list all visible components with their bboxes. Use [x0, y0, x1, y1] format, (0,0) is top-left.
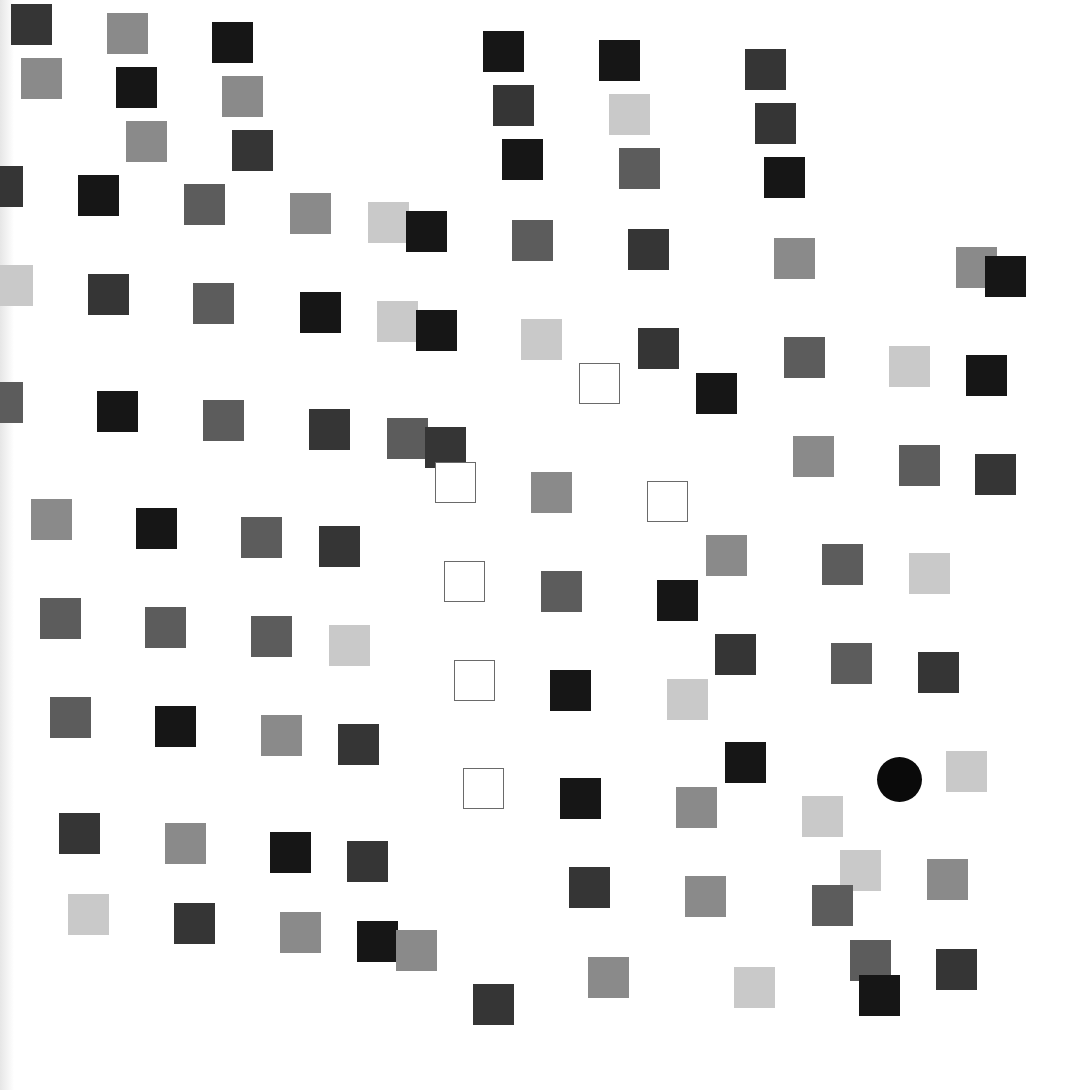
- gray-square: [685, 876, 726, 917]
- mid-square: [40, 598, 81, 639]
- dark-square: [309, 409, 350, 450]
- stimulus-canvas: [0, 0, 1078, 1090]
- light-square: [329, 625, 370, 666]
- dark-square: [11, 4, 52, 45]
- mid-square: [831, 643, 872, 684]
- mid-square: [193, 283, 234, 324]
- black-square: [985, 256, 1026, 297]
- gray-square: [165, 823, 206, 864]
- black-square: [764, 157, 805, 198]
- black-square: [406, 211, 447, 252]
- black-square: [502, 139, 543, 180]
- black-square: [78, 175, 119, 216]
- gray-square: [793, 436, 834, 477]
- light-square: [521, 319, 562, 360]
- dark-square: [319, 526, 360, 567]
- dark-square: [755, 103, 796, 144]
- black-square: [300, 292, 341, 333]
- dark-square: [715, 634, 756, 675]
- gray-square: [774, 238, 815, 279]
- mid-square: [145, 607, 186, 648]
- dark-square: [493, 85, 534, 126]
- black-square: [483, 31, 524, 72]
- mid-square: [512, 220, 553, 261]
- mid-square: [203, 400, 244, 441]
- light-square: [909, 553, 950, 594]
- black-square: [696, 373, 737, 414]
- mid-square: [899, 445, 940, 486]
- dark-square: [232, 130, 273, 171]
- black-square: [859, 975, 900, 1016]
- mid-square: [387, 418, 428, 459]
- dark-square: [347, 841, 388, 882]
- mid-square: [251, 616, 292, 657]
- black-square: [155, 706, 196, 747]
- black-square: [560, 778, 601, 819]
- gray-square: [676, 787, 717, 828]
- mid-square: [50, 697, 91, 738]
- mid-square: [812, 885, 853, 926]
- outline-square: [454, 660, 495, 701]
- dark-square: [569, 867, 610, 908]
- outline-square: [435, 462, 476, 503]
- light-square: [377, 301, 418, 342]
- gray-square: [31, 499, 72, 540]
- outline-square: [463, 768, 504, 809]
- gray-square: [927, 859, 968, 900]
- outline-square: [444, 561, 485, 602]
- gray-square: [588, 957, 629, 998]
- dark-square: [59, 813, 100, 854]
- gray-square: [107, 13, 148, 54]
- dark-square: [0, 166, 23, 207]
- light-square: [609, 94, 650, 135]
- gray-square: [396, 930, 437, 971]
- gray-square: [706, 535, 747, 576]
- mid-square: [184, 184, 225, 225]
- gray-square: [280, 912, 321, 953]
- light-square: [0, 265, 33, 306]
- light-square: [68, 894, 109, 935]
- dark-square: [745, 49, 786, 90]
- gray-square: [126, 121, 167, 162]
- black-square: [116, 67, 157, 108]
- light-square: [946, 751, 987, 792]
- dark-square: [338, 724, 379, 765]
- black-square: [599, 40, 640, 81]
- black-square: [212, 22, 253, 63]
- mid-square: [0, 382, 23, 423]
- black-square: [97, 391, 138, 432]
- black-square: [966, 355, 1007, 396]
- outline-square: [647, 481, 688, 522]
- black-square: [416, 310, 457, 351]
- gray-square: [222, 76, 263, 117]
- black-square: [357, 921, 398, 962]
- light-square: [667, 679, 708, 720]
- black-square: [657, 580, 698, 621]
- light-square: [368, 202, 409, 243]
- black-square: [136, 508, 177, 549]
- dark-square: [975, 454, 1016, 495]
- mid-square: [619, 148, 660, 189]
- outline-square: [579, 363, 620, 404]
- gray-square: [261, 715, 302, 756]
- mid-square: [822, 544, 863, 585]
- dark-square: [918, 652, 959, 693]
- mid-square: [241, 517, 282, 558]
- gray-square: [21, 58, 62, 99]
- dark-square: [936, 949, 977, 990]
- page-edge-shadow: [0, 0, 14, 1090]
- mid-square: [541, 571, 582, 612]
- light-square: [889, 346, 930, 387]
- dark-square: [638, 328, 679, 369]
- mid-square: [784, 337, 825, 378]
- black-square: [725, 742, 766, 783]
- target-circle: [877, 757, 922, 802]
- black-square: [550, 670, 591, 711]
- dark-square: [473, 984, 514, 1025]
- dark-square: [88, 274, 129, 315]
- light-square: [802, 796, 843, 837]
- light-square: [734, 967, 775, 1008]
- gray-square: [290, 193, 331, 234]
- gray-square: [531, 472, 572, 513]
- dark-square: [174, 903, 215, 944]
